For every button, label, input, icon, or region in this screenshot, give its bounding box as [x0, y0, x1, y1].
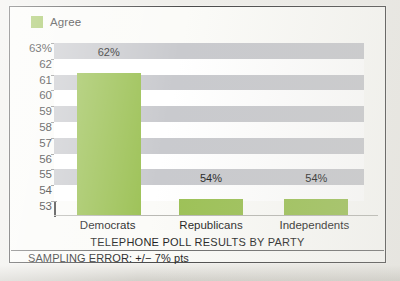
bar-value-label: 54% — [179, 172, 243, 184]
x-axis-tick-label: Independents — [263, 219, 366, 231]
footer-divider — [11, 250, 384, 251]
x-axis-tick-labels: DemocratsRepublicansIndependents — [54, 219, 378, 235]
x-axis-line — [54, 215, 378, 216]
bar-independents — [284, 199, 348, 215]
sampling-error-note: SAMPLING ERROR: +/− 7% pts — [28, 252, 189, 264]
scan-shadow — [0, 265, 400, 281]
plot-area: 62%54%54% — [54, 43, 376, 215]
chart-frame: Agree 63%62616059585756555453 62%54%54% … — [9, 6, 386, 263]
y-axis-tick-label: 63% — [29, 43, 52, 53]
scanned-page: Agree 63%62616059585756555453 62%54%54% … — [0, 0, 400, 281]
chart-legend: Agree — [31, 16, 81, 28]
bar-value-label: 54% — [284, 172, 348, 184]
bar-democrats — [77, 73, 141, 215]
x-axis-tick-label: Republicans — [159, 219, 262, 231]
y-axis-tick-labels: 63%62616059585756555453 — [20, 37, 52, 219]
x-axis-tick-label: Democrats — [56, 219, 159, 231]
bar-republicans — [179, 199, 243, 215]
chart-title: TELEPHONE POLL RESULTS BY PARTY — [10, 236, 385, 248]
bar-value-label: 62% — [77, 46, 141, 58]
legend-label-agree: Agree — [50, 16, 81, 28]
legend-swatch-agree-icon — [31, 16, 43, 28]
